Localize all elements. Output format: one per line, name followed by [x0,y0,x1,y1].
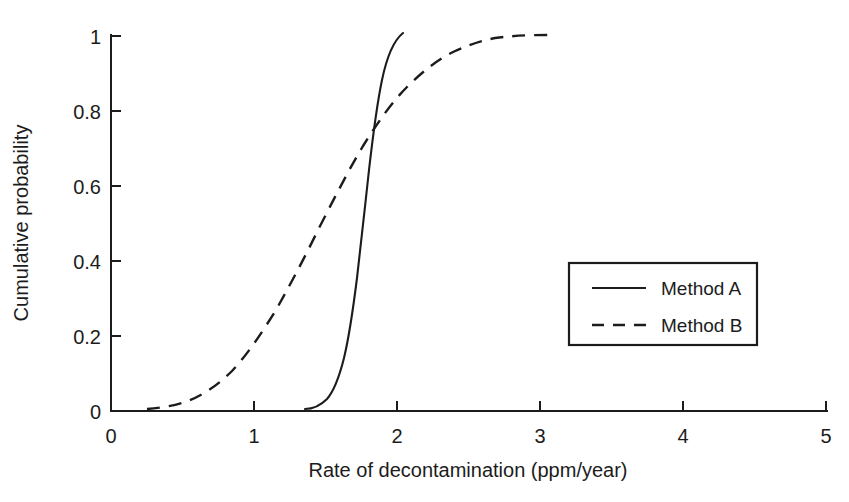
y-tick-label-0: 0 [90,401,101,423]
chart-canvas: 0 0.2 0.4 0.6 0.8 1 0 1 2 3 4 5 Rate of … [0,0,849,502]
y-tick-label-0.4: 0.4 [73,251,101,273]
figure-container: 0 0.2 0.4 0.6 0.8 1 0 1 2 3 4 5 Rate of … [0,0,849,502]
x-tick-label-3: 3 [534,425,545,447]
axes-group [111,35,827,411]
x-tick-label-4: 4 [677,425,688,447]
y-tick-label-1: 1 [90,26,101,48]
x-tick-label-1: 1 [248,425,259,447]
series-line-method-b [147,35,548,409]
x-tick-label-0: 0 [105,425,116,447]
x-axis-title: Rate of decontamination (ppm/year) [308,459,627,481]
caption-ghost-text [150,482,750,500]
y-tick-label-0.2: 0.2 [73,326,101,348]
x-tick-labels: 0 1 2 3 4 5 [105,425,831,447]
x-tick-label-2: 2 [391,425,402,447]
legend-label-method-b: Method B [661,315,742,336]
y-axis-title: Cumulative probability [10,125,32,322]
series-line-method-a [305,33,403,409]
legend: Method A Method B [569,263,757,345]
x-tick-label-5: 5 [820,425,831,447]
y-tick-marks [111,36,121,411]
y-tick-label-0.6: 0.6 [73,176,101,198]
y-tick-label-0.8: 0.8 [73,101,101,123]
x-tick-marks [111,401,826,411]
y-tick-labels: 0 0.2 0.4 0.6 0.8 1 [73,26,101,423]
legend-label-method-a: Method A [661,278,742,299]
